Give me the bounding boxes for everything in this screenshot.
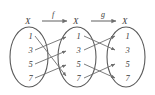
- element-right-7: 7: [123, 73, 132, 83]
- f-edge-7-to-5: [35, 65, 66, 78]
- f-edge-3-to-1: [35, 37, 66, 50]
- set-label-left: X: [25, 16, 31, 26]
- element-middle-3: 3: [74, 45, 83, 55]
- element-left-1: 1: [26, 31, 35, 41]
- f-edge-5-to-3: [35, 51, 66, 64]
- set-label-right: X: [122, 16, 128, 26]
- f-edge-1-to-7: [35, 36, 66, 76]
- element-left-5: 5: [26, 59, 35, 69]
- element-middle-5: 5: [74, 59, 83, 69]
- element-right-5: 5: [123, 59, 132, 69]
- element-left-7: 7: [26, 73, 35, 83]
- set-label-middle: X: [73, 16, 79, 26]
- element-middle-7: 7: [74, 73, 83, 83]
- map-label-g: g: [101, 10, 105, 19]
- element-middle-1: 1: [74, 31, 83, 41]
- map-label-f: f: [52, 10, 54, 19]
- arrow-diagram-figure: X X X f g 1 3 5 7 1 3 5 7 1 3 5 7: [0, 0, 155, 95]
- element-left-3: 3: [26, 45, 35, 55]
- element-right-1: 1: [123, 31, 132, 41]
- element-right-3: 3: [123, 45, 132, 55]
